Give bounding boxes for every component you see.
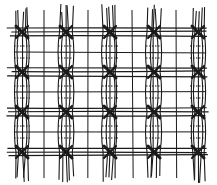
warp-thread <box>176 10 177 178</box>
horizontal-threads <box>6 28 208 156</box>
warp-thread <box>23 12 25 182</box>
weft-thread <box>10 36 207 37</box>
warp-thread <box>198 11 199 183</box>
woven-grid-drawing <box>0 0 217 185</box>
